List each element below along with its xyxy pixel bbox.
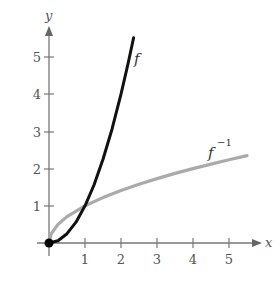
origin-point <box>45 239 54 248</box>
x-tick-label: 1 <box>81 252 89 267</box>
x-axis-label: x <box>265 235 273 250</box>
f-inverse-label: f <box>207 144 216 162</box>
y-tick-label: 5 <box>33 50 41 65</box>
f-inverse-superscript: −1 <box>217 137 232 148</box>
y-tick-label: 4 <box>33 87 41 102</box>
y-tick-label: 3 <box>33 125 41 140</box>
curve-f-inverse <box>49 156 247 243</box>
y-tick-label: 1 <box>33 199 41 214</box>
x-tick-label: 5 <box>225 252 233 267</box>
x-tick-label: 2 <box>117 252 125 267</box>
y-tick-label: 2 <box>33 162 41 177</box>
y-axis-label: y <box>44 8 53 23</box>
function-inverse-chart: 1 2 3 4 5 1 2 3 4 5 x y f f −1 <box>0 0 280 281</box>
curve-f <box>49 38 134 243</box>
f-label: f <box>133 50 142 68</box>
x-tick-label: 4 <box>189 252 197 267</box>
x-tick-label: 3 <box>153 252 161 267</box>
f-inverse-base: f <box>207 144 216 162</box>
